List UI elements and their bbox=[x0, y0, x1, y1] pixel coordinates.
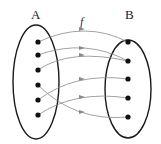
set-b-ellipse bbox=[105, 40, 151, 138]
arrow-a4-b5 bbox=[38, 85, 128, 118]
element-b2 bbox=[125, 58, 130, 63]
element-a4 bbox=[35, 82, 40, 87]
element-b5 bbox=[125, 114, 130, 119]
set-a-label: A bbox=[31, 7, 41, 22]
element-a6 bbox=[35, 112, 40, 117]
element-a2 bbox=[35, 52, 40, 57]
function-mapping-diagram: A B f bbox=[0, 0, 161, 144]
set-a-elements bbox=[35, 39, 40, 117]
function-label: f bbox=[80, 15, 85, 29]
element-a1 bbox=[35, 39, 40, 44]
element-b4 bbox=[125, 95, 130, 100]
arrowhead-icon bbox=[79, 46, 85, 50]
set-b-elements bbox=[125, 39, 130, 119]
element-b3 bbox=[125, 76, 130, 81]
element-a5 bbox=[35, 97, 40, 102]
arrow-a3-b2 bbox=[38, 56, 128, 70]
arrowhead-icon bbox=[79, 95, 85, 99]
element-b1 bbox=[125, 39, 130, 44]
set-b-label: B bbox=[125, 7, 134, 22]
element-a3 bbox=[35, 67, 40, 72]
